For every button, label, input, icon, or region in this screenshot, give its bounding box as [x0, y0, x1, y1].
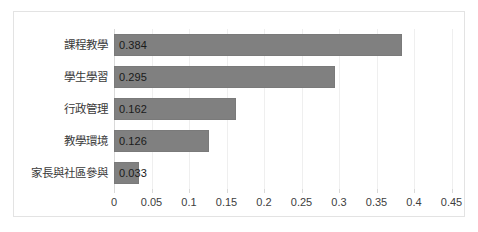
category-label: 教學環境: [64, 130, 108, 152]
x-tick-label: 0.2: [256, 193, 271, 211]
bar[interactable]: [114, 34, 402, 56]
bar-row: 教學環境0.126: [114, 125, 452, 157]
bar-row: 學生學習0.295: [114, 61, 452, 93]
bar-value-label: 0.162: [119, 98, 147, 120]
x-tick-label: 0.45: [441, 193, 462, 211]
bar-value-label: 0.126: [119, 130, 147, 152]
x-tick-label: 0.3: [331, 193, 346, 211]
category-label: 課程教學: [64, 34, 108, 56]
x-tick-label: 0.25: [291, 193, 312, 211]
category-label: 學生學習: [64, 66, 108, 88]
bar-row: 行政管理0.162: [114, 93, 452, 125]
x-tick-label: 0.15: [216, 193, 237, 211]
category-label: 家長與社區參與: [31, 162, 108, 184]
bar-row: 家長與社區參與0.033: [114, 157, 452, 189]
bar-rows: 課程教學0.384學生學習0.295行政管理0.162教學環境0.126家長與社…: [114, 29, 452, 189]
x-tick-label: 0.05: [141, 193, 162, 211]
bar-value-label: 0.295: [119, 66, 147, 88]
gridline: [452, 29, 453, 189]
x-tick-label: 0.1: [181, 193, 196, 211]
bar-value-label: 0.384: [119, 34, 147, 56]
category-label: 行政管理: [64, 98, 108, 120]
bar-row: 課程教學0.384: [114, 29, 452, 61]
x-tick-label: 0: [111, 193, 117, 211]
bar-value-label: 0.033: [119, 162, 147, 184]
x-axis-labels: 00.050.10.150.20.250.30.350.40.45: [114, 193, 452, 211]
x-tick-label: 0.4: [406, 193, 421, 211]
x-tick-label: 0.35: [366, 193, 387, 211]
plot-area: 課程教學0.384學生學習0.295行政管理0.162教學環境0.126家長與社…: [114, 29, 452, 189]
bar[interactable]: [114, 66, 335, 88]
chart-frame: 課程教學0.384學生學習0.295行政管理0.162教學環境0.126家長與社…: [13, 11, 465, 217]
